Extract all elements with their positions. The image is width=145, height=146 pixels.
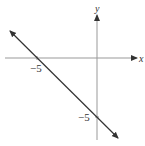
line-y-equals-neg-x-minus-5 — [10, 31, 118, 138]
y-intercept-label: −5 — [78, 111, 90, 123]
y-axis-label: y — [94, 3, 100, 14]
x-intercept-label: −5 — [30, 62, 42, 74]
x-axis-label: x — [138, 53, 144, 64]
coordinate-plane: y x −5 −5 — [0, 0, 145, 146]
